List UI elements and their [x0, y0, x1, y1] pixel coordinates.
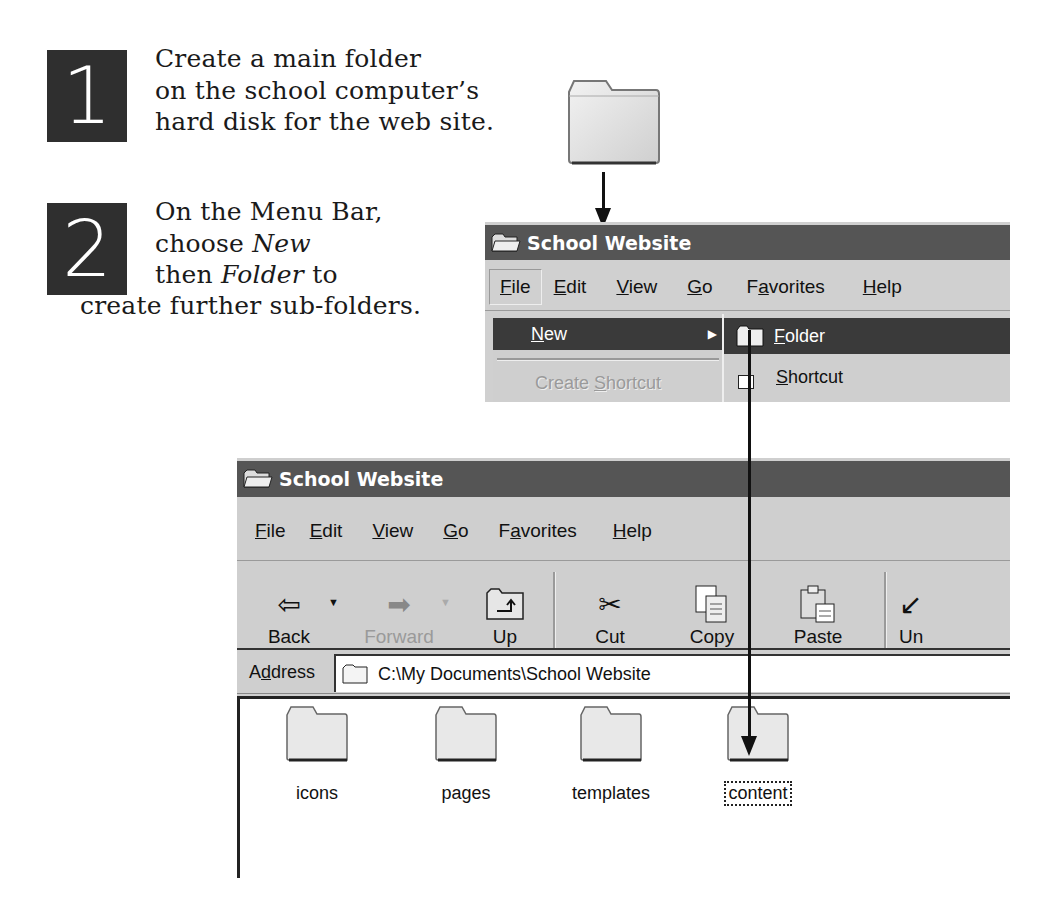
toolbar-separator [553, 572, 556, 648]
undo-button[interactable]: ↙ Un [899, 572, 949, 648]
menu-file[interactable]: File [237, 520, 298, 542]
paste-button[interactable]: Paste [772, 572, 864, 648]
back-dropdown-icon[interactable]: ▼ [328, 596, 339, 608]
undo-icon: ↙ [899, 582, 922, 626]
menu-separator [497, 358, 719, 361]
menu-go[interactable]: Go [425, 520, 480, 542]
paste-icon [798, 582, 838, 626]
emphasis-folder: Folder [221, 260, 304, 289]
up-folder-icon [485, 582, 525, 626]
step-1-line-3: hard disk for the web site. [155, 106, 494, 138]
folder-open-icon [243, 469, 273, 489]
folder-item-icons[interactable]: icons [262, 705, 372, 804]
step-2-line-2-prefix: choose [155, 229, 252, 258]
up-button[interactable]: Up [459, 572, 551, 648]
explorer-window: School Website File Edit View Go Favorit… [237, 458, 1010, 878]
arrow-connector-2 [748, 330, 751, 740]
step-2-line-3-suffix: to [304, 260, 338, 289]
toolbar-separator [884, 572, 887, 648]
emphasis-new: New [252, 229, 311, 258]
submenu-arrow-icon: ▶ [708, 327, 717, 341]
step-2-line-3: then Folder to [155, 259, 383, 291]
step-1-text: Create a main folder on the school compu… [155, 43, 494, 138]
folder-icon [434, 705, 498, 763]
step-number-badge-1: 1 [47, 50, 127, 142]
folder-item-content[interactable]: content [703, 705, 813, 804]
step-2-text: On the Menu Bar, choose New then Folder … [155, 196, 383, 291]
menu-go[interactable]: Go [669, 276, 724, 298]
address-label: Address [249, 662, 315, 683]
new-submenu: Folder Shortcut [722, 314, 1010, 402]
menu-view[interactable]: View [354, 520, 425, 542]
menu-edit[interactable]: Edit [298, 520, 355, 542]
shortcut-icon [738, 375, 754, 389]
menu-edit[interactable]: Edit [542, 276, 599, 298]
copy-icon [694, 582, 730, 626]
menu-bar: File Edit View Go Favorites Help [485, 264, 1010, 311]
forward-arrow-icon: ➡ [387, 582, 410, 626]
menu-favorites[interactable]: Favorites [725, 276, 837, 298]
folder-open-icon [491, 233, 521, 253]
step-number-badge-2: 2 [47, 203, 127, 295]
arrow-connector-1 [602, 172, 605, 212]
folder-icon [579, 705, 643, 763]
folder-item-templates[interactable]: templates [556, 705, 666, 804]
scissors-icon: ✂ [598, 582, 621, 626]
folder-icon [726, 705, 790, 763]
toolbar: ⇦ Back ▼ ➡ Forward ▼ Up ✂ Cut Copy [237, 564, 1010, 650]
address-bar: Address C:\My Documents\School Website [237, 651, 1010, 694]
folder-item-pages[interactable]: pages [411, 705, 521, 804]
back-button[interactable]: ⇦ Back ▼ [243, 572, 335, 648]
address-value: C:\My Documents\School Website [378, 664, 651, 685]
title-bar: School Website [485, 225, 1010, 260]
menu-item-folder[interactable]: Folder [724, 318, 1010, 354]
folder-icon [566, 78, 662, 166]
cut-button[interactable]: ✂ Cut [564, 572, 656, 648]
step-2-line-2: choose New [155, 228, 383, 260]
address-input[interactable]: C:\My Documents\School Website [334, 654, 1010, 692]
folder-icon [285, 705, 349, 763]
step-2-line-1: On the Menu Bar, [155, 196, 383, 228]
folder-label: icons [294, 783, 340, 804]
window-title: School Website [279, 468, 443, 490]
menu-help[interactable]: Help [589, 520, 664, 542]
menu-bar: File Edit View Go Favorites Help [237, 502, 1010, 561]
step-2-line-3-prefix: then [155, 260, 221, 289]
forward-button[interactable]: ➡ Forward ▼ [353, 572, 445, 648]
folder-contents-pane: icons pages templates content [237, 696, 1010, 878]
menu-file[interactable]: File [489, 269, 542, 305]
menu-item-create-shortcut[interactable]: Create Shortcut [493, 366, 723, 400]
menu-item-shortcut[interactable]: Shortcut [724, 358, 1010, 396]
file-dropdown-menu: New ▶ Create Shortcut [493, 314, 723, 402]
copy-button[interactable]: Copy [666, 572, 758, 648]
menu-help[interactable]: Help [837, 276, 914, 298]
arrow-head-2 [741, 736, 757, 756]
menu-item-new[interactable]: New ▶ [493, 318, 723, 350]
folder-icon [342, 664, 368, 684]
back-arrow-icon: ⇦ [277, 582, 300, 626]
step-1-line-1: Create a main folder [155, 43, 494, 75]
menu-view[interactable]: View [598, 276, 669, 298]
step-2-line-4: create further sub-folders. [80, 290, 421, 322]
folder-label-selected[interactable]: content [726, 783, 789, 804]
folder-label: pages [439, 783, 492, 804]
menu-favorites[interactable]: Favorites [481, 520, 589, 542]
window-title: School Website [527, 232, 691, 254]
folder-label: templates [570, 783, 652, 804]
forward-dropdown-icon[interactable]: ▼ [440, 596, 451, 608]
title-bar: School Website [237, 461, 1010, 497]
step-1-line-2: on the school computer’s [155, 75, 494, 107]
